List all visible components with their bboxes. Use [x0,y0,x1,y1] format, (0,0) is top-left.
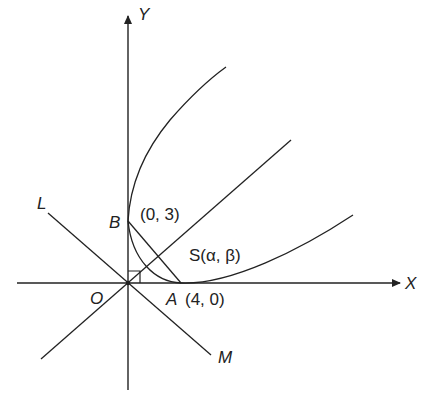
point-A-coords: (4, 0) [185,291,225,308]
point-B-coords: (0, 3) [140,206,180,223]
x-axis-label: X [405,275,416,292]
origin-point [126,281,130,285]
parabola-upper-branch [128,67,226,221]
line-L-label: L [37,195,46,212]
line-M-label: M [218,349,232,366]
point-S-label: S(α, β) [189,247,241,264]
line-y-equals-x [41,140,291,359]
diagram-svg [0,0,427,401]
origin-label: O [90,290,103,307]
diagram-canvas: Y X O B (0, 3) A (4, 0) S(α, β) L M [0,0,427,401]
point-B-label: B [109,214,120,231]
point-A-label: A [166,291,177,308]
y-axis-label: Y [138,6,149,23]
